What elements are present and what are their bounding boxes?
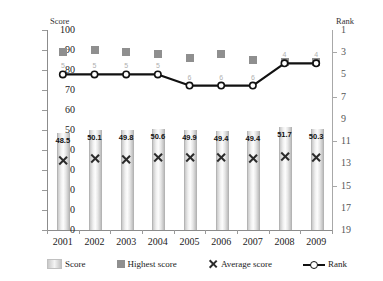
y-axis-right-line bbox=[332, 30, 333, 231]
rank-value-label: 5 bbox=[83, 62, 107, 69]
average-score-marker bbox=[152, 152, 163, 163]
x-axis-tick bbox=[110, 230, 111, 234]
x-axis-line bbox=[47, 230, 333, 231]
rank-value-label: 4 bbox=[273, 51, 297, 58]
y-axis-left-tick-label: 70 bbox=[35, 85, 75, 95]
highest-score-marker bbox=[154, 50, 162, 58]
rank-point-marker bbox=[155, 71, 161, 77]
highest-score-marker bbox=[91, 46, 99, 54]
score-bar-value-label: 49.8 bbox=[109, 134, 143, 142]
score-bar-value-label: 50.1 bbox=[78, 134, 112, 142]
highest-score-marker bbox=[312, 58, 320, 66]
x-axis-tick-label: 2009 bbox=[296, 236, 336, 247]
score-bar-value-label: 49.4 bbox=[236, 135, 270, 143]
rank-value-label: 5 bbox=[146, 62, 170, 69]
legend-label-score: Score bbox=[65, 259, 86, 269]
score-bar-value-label: 51.7 bbox=[268, 131, 302, 139]
y-axis-right-tick-label: 15 bbox=[341, 181, 371, 191]
y-axis-right-tick bbox=[332, 52, 337, 53]
score-bar-value-label: 49.4 bbox=[204, 135, 238, 143]
legend-label-highest-score: Highest score bbox=[128, 259, 177, 269]
chart-legend: Score Highest score Average score Rank bbox=[47, 256, 347, 272]
rank-point-marker bbox=[123, 71, 129, 77]
rank-point-marker bbox=[186, 82, 192, 88]
score-bar bbox=[89, 130, 102, 230]
highest-score-marker bbox=[122, 48, 130, 56]
y-axis-right-tick bbox=[332, 97, 337, 98]
average-score-marker bbox=[89, 153, 100, 164]
y-axis-left-tick-label: 90 bbox=[35, 45, 75, 55]
rank-point-marker bbox=[250, 82, 256, 88]
x-axis-tick bbox=[269, 230, 270, 234]
rank-value-label: 6 bbox=[178, 74, 202, 81]
y-axis-right-tick-label: 3 bbox=[341, 47, 371, 57]
y-axis-right-tick-label: 9 bbox=[341, 114, 371, 124]
score-bar bbox=[121, 130, 134, 230]
legend-item-rank[interactable]: Rank bbox=[303, 259, 347, 269]
score-bar-value-label: 49.9 bbox=[173, 134, 207, 142]
x-axis-tick bbox=[174, 230, 175, 234]
score-bar bbox=[247, 131, 260, 230]
average-score-marker bbox=[216, 152, 227, 163]
x-axis-tick bbox=[142, 230, 143, 234]
y-axis-right-tick bbox=[332, 186, 337, 187]
x-axis-tick bbox=[47, 230, 48, 234]
highest-score-marker bbox=[59, 48, 67, 56]
score-bar-value-label: 50.6 bbox=[141, 133, 175, 141]
highest-score-marker bbox=[249, 56, 257, 64]
x-axis-tick bbox=[205, 230, 206, 234]
average-score-marker bbox=[121, 154, 132, 165]
rank-point-marker bbox=[218, 82, 224, 88]
score-bar bbox=[152, 129, 165, 230]
rank-value-label: 5 bbox=[114, 62, 138, 69]
average-score-marker bbox=[247, 153, 258, 164]
legend-label-rank: Rank bbox=[328, 259, 347, 269]
highest-score-marker bbox=[281, 58, 289, 66]
rank-value-label: 6 bbox=[209, 74, 233, 81]
legend-item-highest-score[interactable]: Highest score bbox=[117, 259, 177, 269]
x-axis-tick bbox=[332, 230, 333, 234]
score-bar-value-label: 48.5 bbox=[46, 137, 80, 145]
highest-score-marker bbox=[217, 50, 225, 58]
average-score-marker bbox=[184, 152, 195, 163]
rank-value-label: 4 bbox=[304, 51, 328, 58]
average-score-marker bbox=[57, 155, 68, 166]
y-axis-right-tick-label: 7 bbox=[341, 92, 371, 102]
average-score-marker bbox=[311, 152, 322, 163]
score-bar bbox=[184, 130, 197, 230]
y-axis-left-tick-label: 100 bbox=[35, 25, 75, 35]
score-bar bbox=[311, 129, 324, 230]
x-swatch-icon bbox=[208, 259, 218, 269]
highest-score-marker bbox=[186, 54, 194, 62]
rank-point-marker bbox=[91, 71, 97, 77]
square-swatch-icon bbox=[117, 260, 125, 268]
y-axis-right-tick-label: 1 bbox=[341, 25, 371, 35]
score-bar bbox=[279, 127, 292, 230]
average-score-marker bbox=[279, 151, 290, 162]
score-bar bbox=[216, 131, 229, 230]
legend-item-score[interactable]: Score bbox=[47, 259, 86, 269]
y-axis-right-tick-label: 11 bbox=[341, 136, 371, 146]
legend-item-average-score[interactable]: Average score bbox=[208, 259, 272, 269]
legend-label-average-score: Average score bbox=[221, 259, 272, 269]
bar-swatch-icon bbox=[47, 259, 62, 269]
score-bar bbox=[57, 133, 70, 230]
y-axis-right-tick-label: 13 bbox=[341, 158, 371, 168]
rank-value-label: 5 bbox=[51, 62, 75, 69]
y-axis-left-tick-label: 60 bbox=[35, 105, 75, 115]
y-axis-right-tick-label: 19 bbox=[341, 225, 371, 235]
y-axis-right-tick-label: 5 bbox=[341, 69, 371, 79]
x-axis-tick bbox=[237, 230, 238, 234]
x-axis-tick bbox=[300, 230, 301, 234]
line-circle-swatch-icon bbox=[303, 260, 325, 269]
x-axis-tick bbox=[79, 230, 80, 234]
score-bar-value-label: 50.3 bbox=[299, 133, 333, 141]
rank-value-label: 6 bbox=[241, 74, 265, 81]
y-axis-right-tick-label: 17 bbox=[341, 203, 371, 213]
chart-container: Score Rank 1009080706050403020100 135791… bbox=[0, 0, 383, 281]
